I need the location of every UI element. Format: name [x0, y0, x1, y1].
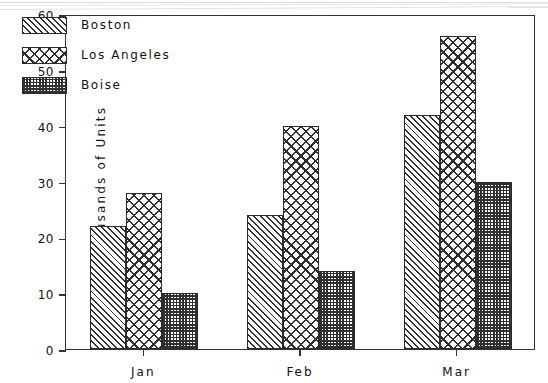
y-axis-tick-label: 10 [14, 289, 54, 301]
legend-item-los-angeles: Los Angeles [22, 44, 170, 66]
y-axis-tick [59, 183, 66, 185]
x-axis-tick-label: Mar [407, 365, 507, 379]
legend-label-boston: Boston [81, 18, 132, 32]
x-axis-tick [143, 350, 145, 356]
bar-boise-feb [319, 271, 355, 349]
bar-boston-mar [404, 115, 440, 350]
legend-swatch-boston-icon [22, 17, 67, 34]
y-axis-tick [59, 350, 66, 352]
y-axis-tick-label: 0 [14, 345, 54, 357]
y-axis-tick [59, 127, 66, 129]
y-axis-tick [59, 294, 66, 296]
bar-boston-feb [247, 215, 283, 349]
legend-item-boston: Boston [22, 14, 170, 36]
scan-artifact-line [0, 6, 548, 10]
legend-label-boise: Boise [81, 78, 122, 92]
legend-swatch-los-angeles-icon [22, 47, 67, 64]
bar-los-angeles-feb [283, 126, 319, 349]
bar-boise-mar [476, 182, 512, 350]
bar-boston-jan [90, 226, 126, 349]
chart-figure: Thousands of Units 0102030405060 Boston … [0, 0, 548, 383]
bar-boise-jan [162, 293, 198, 349]
x-axis-tick [299, 350, 301, 356]
x-axis-tick-label: Feb [250, 365, 350, 379]
chart-legend: Boston Los Angeles Boise [22, 14, 170, 104]
y-axis-tick [59, 239, 66, 241]
y-axis-tick-label: 20 [14, 233, 54, 245]
y-axis-tick-label: 30 [14, 178, 54, 190]
legend-swatch-boise-icon [22, 77, 67, 94]
y-axis-tick-label: 40 [14, 122, 54, 134]
legend-label-los-angeles: Los Angeles [81, 48, 170, 62]
bar-los-angeles-mar [440, 36, 476, 349]
x-axis-tick [456, 350, 458, 356]
bar-los-angeles-jan [126, 193, 162, 349]
legend-item-boise: Boise [22, 74, 170, 96]
x-axis-tick-label: Jan [93, 365, 193, 379]
